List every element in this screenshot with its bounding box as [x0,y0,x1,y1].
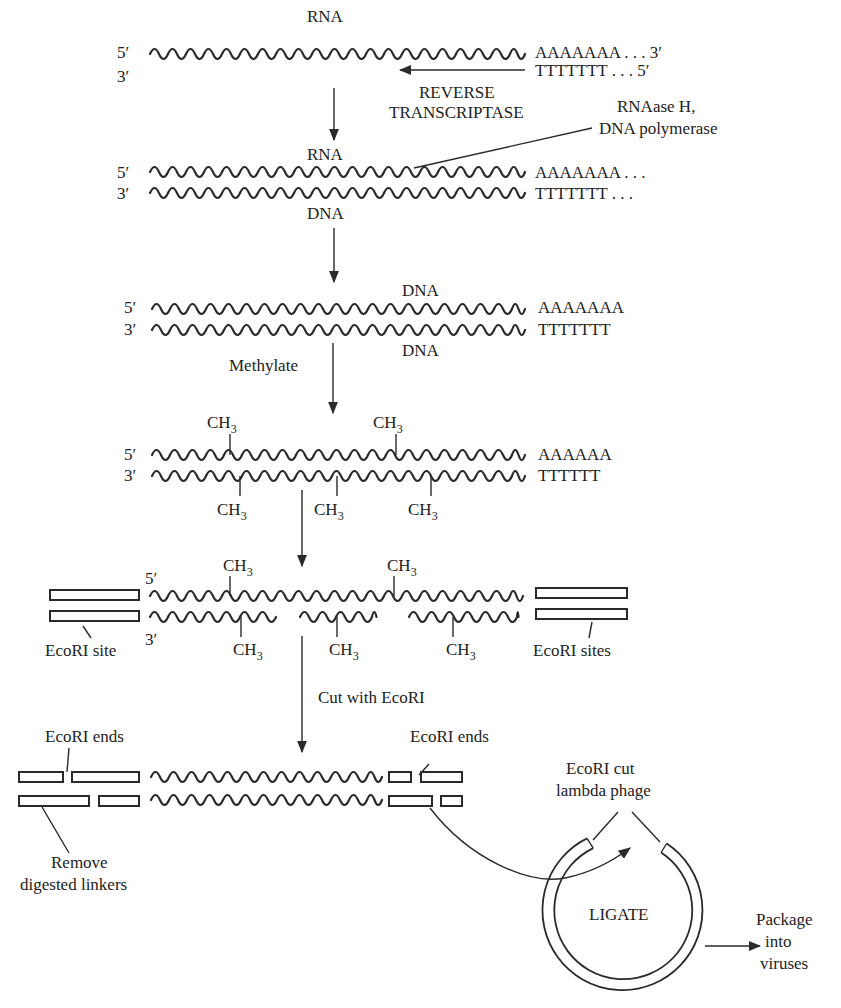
five-prime-label: 5′ [117,163,129,182]
enzyme-label-line2: TRANSCRIPTASE [389,103,524,122]
cdna-cloning-diagram: RNA 5′ AAAAAAA . . . 3′ 3′ TTTTTTT . . .… [0,0,841,1008]
svg-text:CH3: CH3 [223,556,253,579]
insert-into-phage-arrow [430,808,630,879]
phage-end-cap [661,844,667,853]
dna-strand [150,188,525,198]
methylate-label: Methylate [229,356,298,375]
methyl-group: CH3 [223,556,253,596]
dna-top-label: DNA [402,281,440,300]
methyl-group: CH3 [408,476,438,523]
five-prime-label: 5′ [145,569,157,588]
svg-text:CH3: CH3 [314,500,344,523]
linker-fragment [99,796,139,806]
left-ends-leader [67,748,69,772]
step1-rna: RNA 5′ AAAAAAA . . . 3′ 3′ TTTTTTT . . .… [117,7,662,140]
right-site-label: EcoRI sites [533,641,611,660]
step4-methylated: 5′ AAAAAA 3′ TTTTTT CH3 CH3 CH3 CH3 CH3 [124,413,612,566]
cdna-bottom-fragment [150,612,276,622]
three-prime-label: 3′ [124,320,136,339]
phage-label-line2: lambda phage [556,781,651,800]
three-prime-label: 3′ [117,184,129,203]
phage-end-cap [587,838,593,848]
package-label-line3: viruses [760,954,808,973]
methyl-group: CH3 [207,413,237,455]
polya-tail: AAAAAAA . . . 3′ [535,43,662,62]
enzyme2-label-line2: DNA polymerase [599,119,718,138]
methylated-bottom-strand [152,471,525,481]
package-label-line1: Package [756,910,813,929]
linker-fragment [389,772,411,782]
methyl-group: CH3 [373,413,403,455]
cdna-bottom-fragment [409,612,519,622]
linker-fragment [389,796,432,806]
svg-text:CH3: CH3 [408,500,438,523]
ecori-linker-box [536,588,627,598]
rna-strand [150,49,525,59]
enzyme2-label-line1: RNAase H, [617,97,695,116]
step2-hybrid: RNAase H, DNA polymerase RNA 5′ AAAAAAA … [117,97,718,282]
rna-strand [150,167,525,177]
ecori-linker-box [50,590,139,600]
linker-fragment [19,796,89,806]
methyl-group: CH3 [329,617,359,663]
methyl-group: CH3 [233,617,263,663]
cdna-insert-bottom [151,795,382,805]
cdna-insert-top [151,772,382,782]
ecori-linker-box [536,609,627,619]
ecori-linker-box [50,611,139,621]
phage-left-leader [593,812,618,840]
rna-label: RNA [307,145,344,164]
svg-text:CH3: CH3 [387,556,417,579]
remove-label-line1: Remove [51,853,108,872]
enzyme2-leader-line [414,128,592,168]
left-site-leader [83,626,91,638]
svg-text:CH3: CH3 [233,640,263,663]
svg-text:CH3: CH3 [446,640,476,663]
three-prime-label: 3′ [117,67,129,86]
step5-linkers-added: 5′ 3′ CH3 CH3 CH3 CH3 CH3 Ec [45,556,627,752]
methyl-group: CH3 [217,476,247,523]
polyt-tail: TTTTTT [538,466,601,485]
remove-leader [42,807,69,853]
svg-text:CH3: CH3 [217,500,247,523]
lambda-phage-vector: EcoRI cut lambda phage LIGATE Package in… [542,759,812,990]
linker-fragment [441,796,462,806]
linker-fragment [421,772,462,782]
dna-bottom-label: DNA [402,341,440,360]
svg-text:CH3: CH3 [373,413,403,436]
methyl-group: CH3 [314,476,344,523]
three-prime-label: 3′ [124,466,136,485]
ligate-label: LIGATE [589,905,648,924]
polyt-tail: TTTTTTT [538,320,611,339]
five-prime-label: 5′ [124,445,136,464]
cdna-bottom-fragment [300,612,377,622]
step6-cut-products: EcoRI ends EcoRI ends Remove digested li… [19,727,630,894]
three-prime-label: 3′ [145,630,157,649]
five-prime-label: 5′ [117,43,129,62]
five-prime-label: 5′ [124,298,136,317]
left-ends-label: EcoRI ends [45,727,124,746]
polya-tail: AAAAAAA . . . [535,163,646,182]
step3-dsdna: DNA 5′ AAAAAAA 3′ TTTTTTT DNA Methylate [124,281,625,413]
polya-tail: AAAAAA [538,445,612,464]
phage-label-line1: EcoRI cut [566,759,635,778]
rna-label: RNA [307,7,344,26]
remove-label-line2: digested linkers [20,875,127,894]
polyt-primer: TTTTTTT . . . 5′ [535,61,649,80]
right-ends-label: EcoRI ends [410,727,489,746]
svg-text:CH3: CH3 [329,640,359,663]
enzyme-label-line1: REVERSE [419,83,495,102]
right-site-leader [589,622,592,638]
package-label-line2: into [765,932,791,951]
polyt-tail: TTTTTTT . . . [535,184,633,203]
cdna-top-strand [150,591,523,601]
linker-fragment [19,772,63,782]
methyl-group: CH3 [387,556,417,596]
dna-label: DNA [307,204,345,223]
phage-right-leader [632,812,660,842]
linker-fragment [72,772,139,782]
methylated-top-strand [152,450,525,460]
dna-top-strand [152,304,525,314]
left-site-label: EcoRI site [45,641,116,660]
polya-tail: AAAAAAA [538,298,625,317]
